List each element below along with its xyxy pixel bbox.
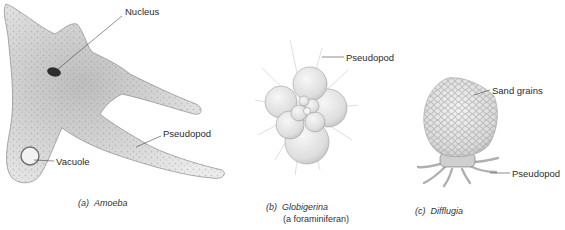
vacuole-label: Vacuole [56,156,90,167]
difflugia-pseudopod-label: Pseudopod [512,168,560,179]
amoeba-pseudopod-label: Pseudopod [163,128,211,139]
chamber [299,96,309,106]
caption-a: (a) Amoeba [78,198,128,209]
globigerina-pseudopod-label: Pseudopod [346,52,394,63]
caption-c-name: Difflugia [431,206,464,216]
caption-a-name: Amoeba [94,198,128,208]
caption-a-letter: (a) [78,198,89,208]
caption-b-letter: (b) [266,202,277,212]
chamber [293,67,327,101]
amoeba-drawing [4,4,224,183]
caption-c: (c) Difflugia [415,206,463,217]
caption-c-letter: (c) [415,206,426,216]
vacuole [21,147,39,165]
sand-grains-label: Sand grains [492,85,543,96]
caption-b-name: Globigerina [282,202,328,212]
protozoa-illustration [0,0,565,230]
nucleus-label: Nucleus [125,6,159,17]
chamber [304,108,311,115]
caption-b-subtitle: (a foraminiferan) [283,214,349,225]
globigerina-drawing [255,40,358,175]
chamber [305,112,325,132]
caption-b: (b) Globigerina [266,202,328,213]
